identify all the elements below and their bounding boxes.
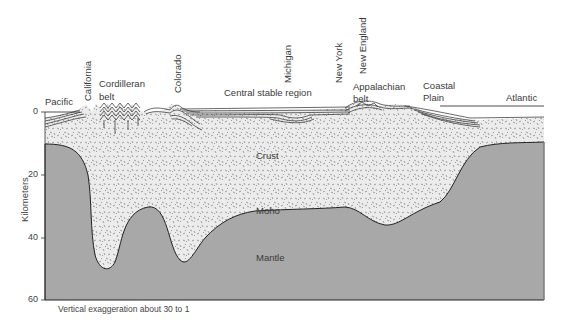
label-atlantic: Atlantic xyxy=(506,92,537,103)
y-tick-40: 40 xyxy=(24,232,38,242)
label-new-england: New England xyxy=(357,17,368,74)
label-cordilleran-line1: Cordilleran xyxy=(99,78,145,89)
label-michigan: Michigan xyxy=(282,45,293,83)
label-california: California xyxy=(82,61,93,101)
figure-caption: Vertical exaggeration about 30 to 1 xyxy=(58,304,189,314)
label-cordilleran-line2: belt xyxy=(99,91,114,102)
label-pacific: Pacific xyxy=(45,96,73,107)
moho-label: Moho xyxy=(256,205,280,216)
label-central-stable-region: Central stable region xyxy=(224,87,312,98)
y-tick-0: 0 xyxy=(24,106,38,116)
y-axis-label: Kilometers xyxy=(19,177,30,222)
label-coastal-line1: Coastal xyxy=(423,80,455,91)
y-tick-60: 60 xyxy=(24,294,38,304)
mantle-label: Mantle xyxy=(256,252,285,263)
label-new-york: New York xyxy=(333,43,344,83)
label-colorado: Colorado xyxy=(172,54,183,93)
label-appalachian-line2: belt xyxy=(353,93,368,104)
y-axis xyxy=(41,112,45,300)
label-coastal-line2: Plain xyxy=(423,92,444,103)
crust-label: Crust xyxy=(256,150,279,161)
label-appalachian-line1: Appalachian xyxy=(353,81,405,92)
